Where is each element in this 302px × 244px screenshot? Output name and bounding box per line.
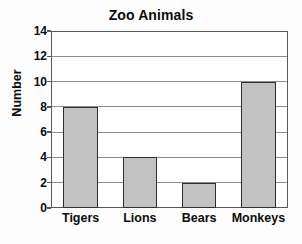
chart-title: Zoo Animals [0, 7, 302, 23]
bar[interactable] [63, 107, 97, 208]
bar[interactable] [182, 183, 216, 208]
x-axis-tick-label: Monkeys [229, 211, 288, 225]
y-axis-tick-label: 12 [3, 49, 47, 63]
y-axis-tick-label: 2 [3, 176, 47, 190]
y-axis-tick-label: 6 [3, 125, 47, 139]
x-axis-tick-label: Tigers [51, 211, 110, 225]
bar-chart: Zoo Animals Number 02468101214 TigersLio… [0, 0, 302, 244]
y-axis-tick-label: 8 [3, 100, 47, 114]
bar[interactable] [241, 82, 275, 208]
x-axis-tick-labels: TigersLionsBearsMonkeys [51, 211, 288, 233]
bars-layer [51, 31, 288, 208]
x-axis-tick-label: Bears [170, 211, 229, 225]
y-axis-tick-labels: 02468101214 [0, 31, 47, 208]
y-axis-tick-label: 14 [3, 24, 47, 38]
x-axis-tick-label: Lions [110, 211, 169, 225]
y-axis-tick-label: 0 [3, 201, 47, 215]
y-axis-tick-label: 4 [3, 150, 47, 164]
bar[interactable] [123, 157, 157, 208]
y-axis-tick-label: 10 [3, 75, 47, 89]
